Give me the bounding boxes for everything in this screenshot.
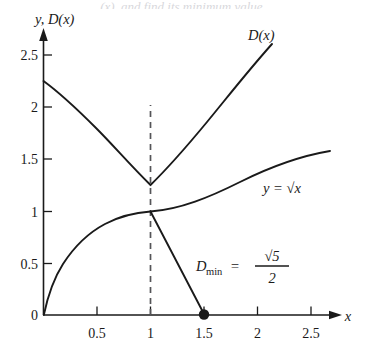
y-axis-title: y, D(x) bbox=[33, 11, 75, 28]
y-tick-label-1: 1 bbox=[31, 205, 38, 220]
curve-label-sqrt-group: y = √x bbox=[261, 180, 301, 196]
y-tick-label-0: 0 bbox=[31, 308, 38, 323]
curve-label-d-of-x: D(x) bbox=[247, 27, 275, 44]
x-tick-label-1: 1 bbox=[147, 326, 154, 341]
x-axis-title: x bbox=[344, 308, 352, 324]
x-tick-label-2: 2 bbox=[254, 326, 261, 341]
y-tick-label-2: 2 bbox=[31, 100, 38, 115]
annotation-denominator-2: 2 bbox=[268, 270, 275, 286]
y-tick-label-1-5: 1.5 bbox=[21, 152, 39, 167]
y-tick-label-0-5: 0.5 bbox=[21, 257, 39, 272]
x-tick-label-2-5: 2.5 bbox=[302, 326, 320, 341]
curve-d-of-x bbox=[44, 44, 273, 185]
y-tick-label-2-5: 2.5 bbox=[21, 48, 39, 63]
x-axis bbox=[44, 311, 343, 319]
figure-container: (x), and find its minimum value, bbox=[0, 0, 366, 360]
x-tick-label-1-5: 1.5 bbox=[195, 326, 213, 341]
point-marker-1-5-0 bbox=[199, 309, 209, 319]
curve-y-equals-sqrt-x bbox=[44, 151, 330, 315]
curve-label-sqrt-x: y = √x bbox=[261, 180, 301, 196]
x-tick-label-0-5: 0.5 bbox=[88, 326, 106, 341]
annotation-min-subscript: min bbox=[206, 266, 223, 277]
graph-canvas: 2.5 2 1.5 1 0.5 0 0.5 1 1.5 2 2.5 y, D(x… bbox=[0, 0, 366, 360]
annotation-numerator-sqrt5: √5 bbox=[264, 248, 279, 264]
y-axis bbox=[39, 28, 48, 315]
annotation-d-min: D min = √5 2 bbox=[195, 248, 289, 286]
annotation-equals-sign: = bbox=[230, 258, 240, 274]
